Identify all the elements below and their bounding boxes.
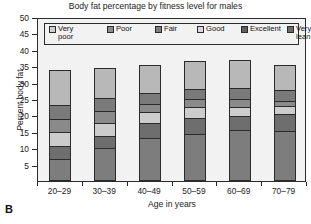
bar-segment-very-poor[interactable] — [139, 65, 161, 94]
bar-segment-very-lean[interactable] — [184, 134, 206, 181]
bar-segment-very-poor[interactable] — [184, 61, 206, 90]
bar-segment-fair[interactable] — [49, 119, 71, 134]
y-tick-label: 15 — [9, 129, 29, 137]
x-tick-label: 70–79 — [254, 186, 311, 196]
legend-label: Fair — [164, 25, 177, 33]
bar-segment-very-lean[interactable] — [229, 130, 251, 181]
bar-20-29[interactable] — [49, 71, 71, 181]
bar-segment-very-lean[interactable] — [274, 131, 296, 181]
x-tick-mark — [306, 182, 307, 186]
bar-segment-good[interactable] — [94, 123, 116, 137]
legend: Very poorPoorFairGoodExcellentVery lean — [44, 23, 299, 45]
legend-swatch-icon — [197, 26, 204, 33]
legend-swatch-icon — [287, 26, 294, 33]
bar-segment-excellent[interactable] — [274, 114, 296, 132]
bar-segment-poor[interactable] — [274, 90, 296, 101]
legend-swatch-icon — [241, 26, 248, 33]
y-tick-label: 25 — [9, 96, 29, 104]
legend-item-poor[interactable]: Poor — [107, 25, 132, 33]
bar-segment-very-poor[interactable] — [229, 60, 251, 88]
bar-segment-poor[interactable] — [49, 105, 71, 120]
legend-label: Poor — [116, 25, 132, 33]
bar-segment-poor[interactable] — [94, 98, 116, 112]
bar-segment-very-lean[interactable] — [49, 159, 71, 181]
bar-segment-very-poor[interactable] — [49, 70, 71, 105]
bar-segment-good[interactable] — [49, 132, 71, 147]
bar-70-79[interactable] — [274, 66, 296, 181]
bar-60-69[interactable] — [229, 61, 251, 181]
legend-label: Very lean — [296, 25, 311, 42]
bar-segment-poor[interactable] — [229, 88, 251, 100]
bar-segment-fair[interactable] — [139, 104, 161, 113]
y-tick-label: 5 — [9, 162, 29, 170]
y-tick-label: 10 — [9, 145, 29, 153]
bar-40-49[interactable] — [139, 66, 161, 181]
bar-segment-good[interactable] — [184, 107, 206, 118]
bar-segment-fair[interactable] — [94, 111, 116, 123]
panel-label: B — [5, 203, 13, 215]
bar-segment-excellent[interactable] — [184, 118, 206, 135]
bar-segment-excellent[interactable] — [229, 116, 251, 131]
bar-segment-fair[interactable] — [184, 99, 206, 108]
y-tick-label: 45 — [9, 30, 29, 38]
bar-30-39[interactable] — [94, 69, 116, 181]
y-tick-label: 20 — [9, 112, 29, 120]
bar-segment-poor[interactable] — [184, 89, 206, 100]
bar-segment-excellent[interactable] — [94, 136, 116, 149]
bar-segment-good[interactable] — [139, 112, 161, 124]
legend-item-very-poor[interactable]: Very poor — [49, 25, 82, 42]
bar-segment-very-poor[interactable] — [274, 65, 296, 92]
legend-label: Excellent — [250, 25, 281, 33]
legend-item-good[interactable]: Good — [197, 25, 225, 33]
bar-segment-very-poor[interactable] — [94, 68, 116, 100]
bar-segment-very-lean[interactable] — [139, 138, 161, 181]
y-tick-label: 40 — [9, 47, 29, 55]
legend-label: Very poor — [58, 25, 82, 42]
y-tick-label: 35 — [9, 63, 29, 71]
legend-label: Good — [206, 25, 225, 33]
legend-item-excellent[interactable]: Excellent — [241, 25, 281, 33]
legend-item-fair[interactable]: Fair — [155, 25, 177, 33]
y-tick-label: 30 — [9, 80, 29, 88]
bar-segment-good[interactable] — [229, 107, 251, 117]
bar-segment-excellent[interactable] — [49, 146, 71, 159]
legend-item-very-lean[interactable]: Very lean — [287, 25, 311, 42]
bar-segment-poor[interactable] — [139, 93, 161, 105]
legend-swatch-icon — [107, 26, 114, 33]
x-axis-title: Age in years — [36, 199, 308, 209]
legend-swatch-icon — [155, 26, 162, 33]
y-tick-label: 50 — [9, 14, 29, 22]
legend-swatch-icon — [49, 26, 56, 33]
figure-panel-b: Body fat percentage by fitness level for… — [0, 0, 311, 224]
bar-segment-excellent[interactable] — [139, 123, 161, 139]
bar-segment-fair[interactable] — [229, 99, 251, 109]
bar-segment-good[interactable] — [274, 106, 296, 115]
chart-title: Body fat percentage by fitness level for… — [0, 0, 311, 13]
bar-50-59[interactable] — [184, 62, 206, 181]
bar-segment-very-lean[interactable] — [94, 148, 116, 181]
